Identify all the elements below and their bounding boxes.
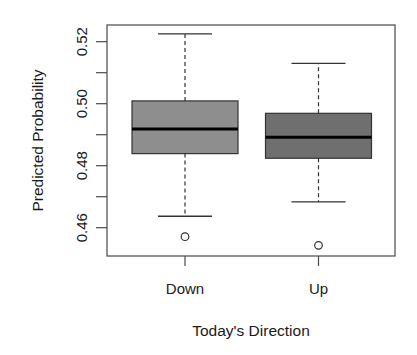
x-tick-label: Down <box>166 280 204 297</box>
boxplot-chart: 0.460.480.500.52 DownUp Predicted Probab… <box>0 0 417 355</box>
box-down <box>132 34 238 241</box>
x-tick-label: Up <box>309 280 328 297</box>
y-tick-label: 0.48 <box>73 151 90 180</box>
x-axis-title: Today's Direction <box>192 322 310 339</box>
y-axis: 0.460.480.500.52 <box>73 27 107 242</box>
outlier-point <box>181 233 189 241</box>
x-axis: DownUp <box>166 256 328 297</box>
iqr-box <box>132 101 238 154</box>
y-tick-label: 0.52 <box>73 27 90 56</box>
box-series <box>132 34 372 249</box>
box-up <box>266 63 372 249</box>
y-axis-title: Predicted Probability <box>29 69 46 211</box>
y-tick-label: 0.50 <box>73 89 90 118</box>
outlier-point <box>315 242 323 250</box>
y-tick-label: 0.46 <box>73 213 90 242</box>
